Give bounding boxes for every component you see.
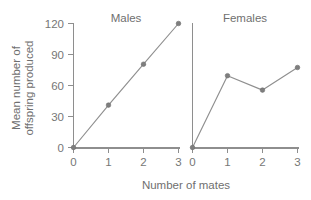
males-point-3 — [176, 21, 181, 26]
y-axis-title-line-2: offspring produced — [23, 40, 35, 135]
males-point-2 — [141, 62, 146, 67]
males-x-tick-label-2: 2 — [140, 156, 146, 168]
panel-title-males: Males — [111, 12, 142, 24]
females-point-3 — [295, 65, 300, 70]
y-tick-label-60: 60 — [51, 80, 64, 92]
females-x-tick-label-1: 1 — [224, 156, 230, 168]
y-axis-title-line-1: Mean number of — [10, 45, 22, 130]
x-axis-title: Number of mates — [142, 179, 230, 191]
two-panel-line-chart: 120 90 60 30 0 0 1 2 3 0 1 2 3 Males Fem… — [0, 0, 311, 200]
males-x-tick-label-3: 3 — [175, 156, 181, 168]
chart-figure: 120 90 60 30 0 0 1 2 3 0 1 2 3 Males Fem… — [0, 0, 311, 200]
y-tick-label-30: 30 — [51, 111, 64, 123]
males-x-tick-label-1: 1 — [105, 156, 111, 168]
y-tick-label-0: 0 — [58, 142, 64, 154]
panel-title-females: Females — [223, 12, 267, 24]
females-x-tick-label-2: 2 — [259, 156, 265, 168]
males-point-0 — [71, 145, 76, 150]
y-tick-label-120: 120 — [45, 18, 64, 30]
males-point-1 — [106, 103, 111, 108]
females-x-tick-label-3: 3 — [294, 156, 300, 168]
females-point-2 — [260, 88, 265, 93]
y-tick-label-90: 90 — [51, 49, 64, 61]
males-x-tick-label-0: 0 — [70, 156, 76, 168]
females-point-1 — [225, 73, 230, 78]
plot-background — [0, 0, 311, 200]
females-x-tick-label-0: 0 — [189, 156, 195, 168]
females-point-0 — [190, 145, 195, 150]
